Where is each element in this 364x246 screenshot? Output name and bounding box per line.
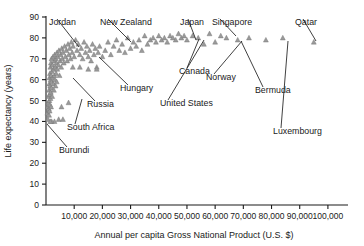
- x-tick-label: 40,000: [146, 211, 172, 221]
- x-tick-label: 90,000: [287, 211, 313, 221]
- data-point-marker: [111, 44, 116, 49]
- data-point-marker: [122, 50, 127, 55]
- data-point-marker: [142, 33, 147, 38]
- data-point-marker: [60, 117, 65, 122]
- data-point-marker: [66, 100, 71, 105]
- x-tick-label: 60,000: [202, 211, 228, 221]
- annotation-label: Singapore: [212, 17, 252, 27]
- data-point-marker: [207, 31, 212, 36]
- annotation-label: New Zealand: [100, 17, 152, 27]
- x-tick-label: 30,000: [118, 211, 144, 221]
- data-point-marker: [117, 48, 122, 53]
- annotation-label: Burundi: [59, 145, 89, 155]
- x-tick-label: 20,000: [89, 211, 115, 221]
- data-point-marker: [90, 42, 95, 47]
- annotation-label: Bermuda: [255, 85, 291, 95]
- y-tick-label: 20: [30, 158, 40, 168]
- data-point-marker: [56, 117, 61, 122]
- data-point-marker: [70, 65, 75, 70]
- data-point-marker: [137, 37, 142, 42]
- y-tick-label: 60: [30, 75, 40, 85]
- data-point-marker: [108, 52, 113, 57]
- data-point-marker: [131, 39, 136, 44]
- y-axis-title: Life expectancy (years): [3, 64, 13, 157]
- data-point-marker: [156, 33, 161, 38]
- data-point-marker: [162, 35, 167, 40]
- annotation-label: Hungary: [120, 83, 154, 93]
- x-tick-label: 10,000: [61, 211, 87, 221]
- data-point-marker: [235, 37, 240, 42]
- data-point-marker: [59, 104, 64, 109]
- annotation-label: Japan: [180, 17, 204, 27]
- y-tick-label: 70: [30, 54, 40, 64]
- x-tick-label: 50,000: [174, 211, 200, 221]
- data-point-marker: [224, 35, 229, 40]
- x-axis-title: Annual per capita Gross National Product…: [94, 230, 293, 240]
- data-point-marker: [82, 39, 87, 44]
- y-tick-label: 50: [30, 96, 40, 106]
- x-tick-label: 70,000: [230, 211, 256, 221]
- annotation-leader-line: [214, 41, 242, 74]
- annotation-label: Luxembourg: [273, 126, 322, 136]
- annotation-label: Norway: [206, 72, 236, 82]
- data-point-marker: [97, 44, 102, 49]
- annotation-leader-line: [73, 78, 95, 101]
- annotation-leader-line: [47, 124, 67, 147]
- data-point-marker: [213, 39, 218, 44]
- data-point-marker: [73, 37, 78, 42]
- data-point-marker: [114, 37, 119, 42]
- data-point-marker: [218, 33, 223, 38]
- annotation-leader-line: [241, 41, 263, 87]
- plot-area: 010203040506070809010,00020,00030,00040,…: [0, 0, 364, 246]
- x-tick-label: 80,000: [259, 211, 285, 221]
- y-tick-label: 40: [30, 116, 40, 126]
- data-point-marker: [86, 67, 91, 72]
- annotation-leader-line: [99, 57, 128, 85]
- data-point-marker: [139, 48, 144, 53]
- annotation-leader-line: [187, 39, 199, 68]
- data-point-marker: [182, 33, 187, 38]
- annotation-leader-line: [75, 99, 82, 124]
- data-point-marker: [103, 48, 108, 53]
- data-point-marker: [128, 46, 133, 51]
- data-point-marker: [106, 39, 111, 44]
- y-tick-label: 90: [30, 12, 40, 22]
- y-tick-label: 30: [30, 137, 40, 147]
- annotation-label: Jordan: [49, 17, 76, 27]
- data-point-marker: [176, 31, 181, 36]
- y-tick-label: 80: [30, 33, 40, 43]
- annotation-label: Russia: [87, 99, 114, 109]
- data-point-marker: [151, 35, 156, 40]
- data-point-marker: [280, 35, 285, 40]
- data-point-marker: [120, 42, 125, 47]
- scatter-chart: 010203040506070809010,00020,00030,00040,…: [0, 0, 364, 246]
- x-tick-label: 100,000: [313, 211, 344, 221]
- y-tick-label: 0: [34, 200, 39, 210]
- data-point-marker: [196, 35, 201, 40]
- data-point-marker: [263, 37, 268, 42]
- data-point-marker: [77, 65, 82, 70]
- annotation-label: South Africa: [67, 122, 115, 132]
- annotation-label: United States: [160, 98, 213, 108]
- data-point-marker: [247, 35, 252, 40]
- annotation-label: Qatar: [295, 17, 317, 27]
- y-tick-label: 10: [30, 179, 40, 189]
